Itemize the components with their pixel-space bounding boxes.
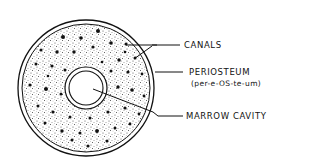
marrow-cavity-label: MARROW CAVITY [186, 112, 266, 121]
periosteum-label: PERIOSTEUM [189, 68, 250, 77]
canals-label: CANALS [184, 41, 222, 50]
marrow-cavity [69, 71, 103, 105]
periosteum-pronunciation: (per-e-OS-te-um) [191, 80, 261, 88]
bone-cross-section-diagram [0, 0, 315, 164]
